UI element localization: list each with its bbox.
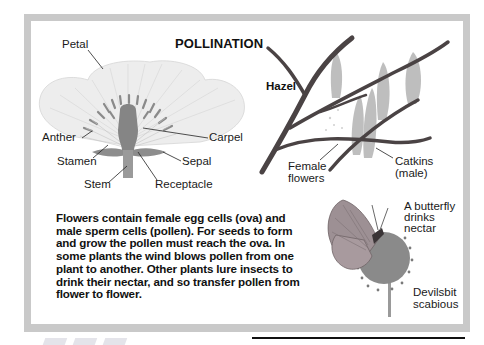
body-line: some plants the wind blows pollen from o…: [56, 250, 316, 263]
decorative-mark: [103, 338, 128, 345]
label-female-flowers-1: Female: [288, 160, 326, 172]
label-receptacle: Receptacle: [155, 178, 213, 190]
label-stamen: Stamen: [57, 155, 97, 167]
label-petal: Petal: [62, 38, 88, 50]
label-catkins-2: (male): [395, 167, 428, 179]
page-title: POLLINATION: [175, 36, 263, 51]
label-scabious-1: Devilsbit: [413, 286, 456, 298]
body-line: plant to another. Other plants lure inse…: [56, 263, 316, 276]
butterfly-illustration: [328, 200, 413, 317]
label-stem: Stem: [84, 178, 111, 190]
label-scabious-2: scabious: [413, 298, 458, 310]
label-catkins-1: Catkins: [395, 155, 433, 167]
body-line: Flowers contain female egg cells (ova) a…: [56, 212, 316, 225]
decorative-mark: [43, 338, 68, 345]
label-carpel: Carpel: [209, 131, 243, 143]
label-female-flowers-2: flowers: [288, 172, 324, 184]
label-anther: Anther: [42, 131, 76, 143]
hazel-illustration: [262, 38, 448, 172]
body-line: flower to flower.: [56, 288, 316, 301]
label-hazel: Hazel: [266, 80, 296, 92]
body-paragraph: Flowers contain female egg cells (ova) a…: [56, 212, 316, 301]
divider-rule: [252, 337, 465, 339]
label-butterfly-3: nectar: [404, 222, 436, 234]
label-sepal: Sepal: [182, 155, 211, 167]
decorative-mark: [73, 338, 98, 345]
